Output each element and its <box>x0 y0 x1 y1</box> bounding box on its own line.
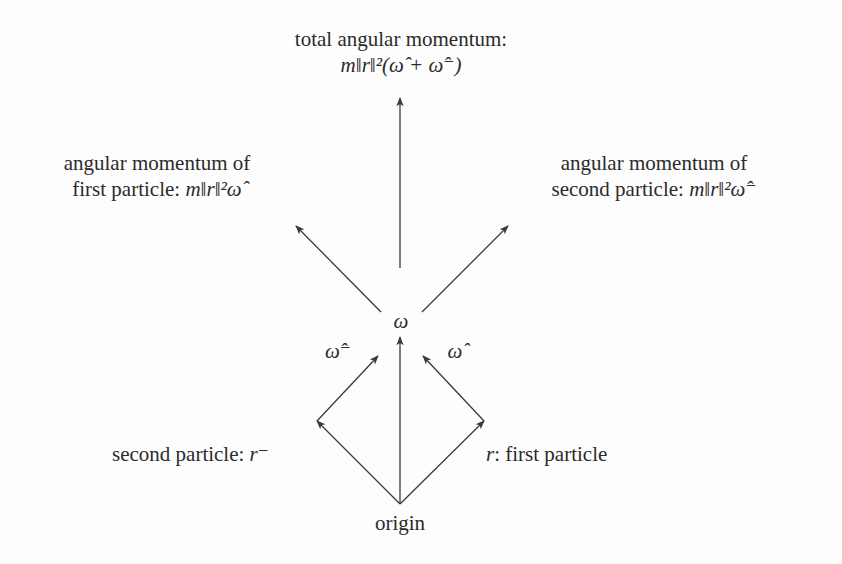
second-am-line1: angular momentum of <box>552 150 757 176</box>
second-particle-symbol: r⁻ <box>250 442 269 466</box>
arrow-second-angular-momentum <box>422 226 508 312</box>
first-particle-label: r: first particle <box>486 441 607 467</box>
omega-hat-minus-label: ω̂⁻ <box>325 338 351 364</box>
second-particle-label: second particle: r⁻ <box>112 441 269 467</box>
second-particle-text: second particle: <box>112 442 250 466</box>
arrow-r-first-particle <box>400 421 484 504</box>
total-angular-momentum-label: total angular momentum: m‖r‖²(ω̂ + ω̂⁻) <box>295 26 507 78</box>
total-formula: m‖r‖²(ω̂ + ω̂⁻) <box>295 52 507 78</box>
omega-label: ω <box>394 308 409 334</box>
omega-hat-label: ω̂ <box>448 338 463 364</box>
first-particle-angular-momentum-label: angular momentum of first particle: m‖r‖… <box>64 150 251 202</box>
arrow-omega-hat-minus <box>317 356 378 421</box>
second-am-formula: m‖r‖²ω̂⁻ <box>689 177 756 201</box>
first-am-text: first particle: <box>72 177 185 201</box>
first-particle-text: : first particle <box>494 442 607 466</box>
arrow-first-angular-momentum <box>296 226 381 312</box>
first-am-line2: first particle: m‖r‖²ω̂ <box>64 176 251 202</box>
first-am-formula: m‖r‖²ω̂ <box>185 177 241 201</box>
second-am-text: second particle: <box>552 177 690 201</box>
first-particle-symbol: r <box>486 442 494 466</box>
arrow-layer <box>0 0 842 564</box>
total-label-text: total angular momentum: <box>295 26 507 52</box>
angular-momentum-diagram: total angular momentum: m‖r‖²(ω̂ + ω̂⁻) … <box>0 0 842 564</box>
arrow-omega-hat <box>423 356 484 421</box>
second-particle-angular-momentum-label: angular momentum of second particle: m‖r… <box>552 150 757 202</box>
arrow-r-second-particle <box>317 421 400 504</box>
first-am-line1: angular momentum of <box>64 150 251 176</box>
second-am-line2: second particle: m‖r‖²ω̂⁻ <box>552 176 757 202</box>
origin-label: origin <box>375 510 425 536</box>
